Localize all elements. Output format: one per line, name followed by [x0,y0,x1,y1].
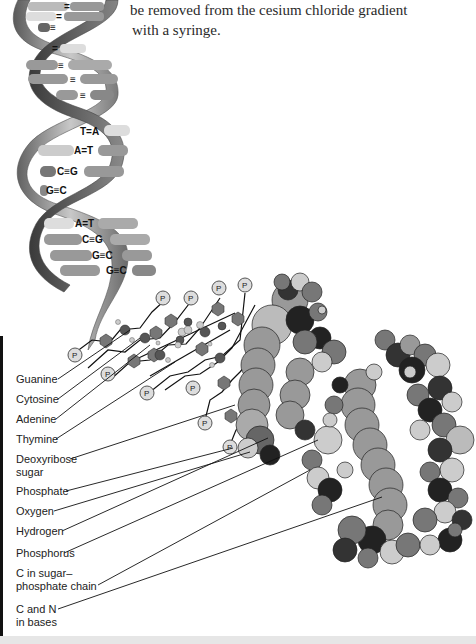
base-pair-label: G≡C [92,250,113,261]
label-deoxyribose-sugar: Deoxyribose sugar [16,453,77,479]
phosphate-groups: P P P P P P P P P P [68,278,252,454]
label-phosphorus: Phosphorus [16,547,75,560]
space-filling-model [236,273,474,568]
base-pair-bond: = [52,43,58,54]
label-c-in-sugar-phosphate-chain: C in sugar– phosphate chain [16,567,97,593]
label-c-and-n-in-bases: C and N in bases [16,603,57,629]
phosphate-icon: P [184,291,198,305]
phosphate-icon: P [198,416,212,430]
phosphate-icon: P [156,291,170,305]
base-pair-bond: ≡ [50,22,56,33]
nucleotide-atoms [100,302,244,423]
base-pair-label: C≡G [82,234,103,245]
label-hydrogen: Hydrogen [16,525,64,538]
label-adenine: Adenine [16,413,56,426]
label-oxygen: Oxygen [16,505,54,518]
base-pair-label: A=T [75,218,94,229]
phosphate-icon: P [223,440,237,454]
base-pair-bond: ≡ [80,90,86,101]
base-pair-bond: = [64,1,70,12]
svg-text:P: P [188,294,193,303]
base-pair-label: G≡C [46,185,67,196]
base-pair-bond: ≡ [70,74,76,85]
label-guanine: Guanine [16,373,58,386]
svg-text:P: P [190,384,195,393]
base-pair-label: G≡C [106,265,127,276]
phosphate-icon: P [238,278,252,292]
base-pairs-labeled: T=A A=T C≡G G≡C A=T C≡G G≡C G≡C [38,125,156,276]
svg-text:P: P [105,370,110,379]
base-pair-label: C≡G [57,166,78,177]
label-thymine: Thymine [16,433,58,446]
page-edge-bar [0,336,3,636]
base-pair-label: A=T [74,145,93,156]
label-cytosine: Cytosine [16,393,59,406]
phosphate-icon: P [68,348,82,362]
phosphate-icon: P [212,281,226,295]
svg-text:P: P [144,389,149,398]
base-pair-bond: = [56,11,62,22]
page-bottom-strip [0,636,476,644]
svg-text:P: P [242,281,247,290]
svg-text:P: P [72,351,77,360]
base-pair-bond: ≡ [58,60,64,71]
phosphate-icon: P [186,381,200,395]
svg-text:P: P [216,284,221,293]
label-phosphate: Phosphate [16,485,69,498]
base-pair-label: T=A [80,126,99,137]
svg-text:P: P [160,294,165,303]
svg-text:P: P [227,443,232,452]
phosphate-icon: P [140,386,154,400]
svg-text:P: P [202,419,207,428]
